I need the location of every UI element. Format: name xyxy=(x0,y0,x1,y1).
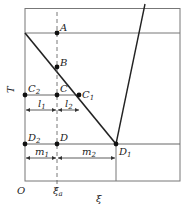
label-c: C xyxy=(60,83,68,94)
label-l1: l1 xyxy=(38,98,46,111)
label-d1: D1 xyxy=(118,146,132,159)
origin-label: O xyxy=(17,185,25,196)
label-d2: D2 xyxy=(27,132,41,145)
point-c1 xyxy=(77,93,82,98)
phase-diagram: A B C2 C C1 D2 D D1 l1 l2 m1 m2 T O ξa ξ xyxy=(0,0,193,215)
x-axis-label: ξ xyxy=(96,193,102,204)
point-a xyxy=(55,31,60,36)
label-d: D xyxy=(59,132,68,143)
y-axis-label: T xyxy=(5,85,16,93)
label-c2: C2 xyxy=(28,83,41,96)
point-b xyxy=(55,65,60,70)
label-a: A xyxy=(59,22,67,33)
label-c1: C1 xyxy=(82,89,94,102)
label-b: B xyxy=(59,57,67,68)
point-d xyxy=(55,142,60,147)
label-l2: l2 xyxy=(65,98,73,111)
x-tick-label: ξa xyxy=(53,185,63,198)
point-d2 xyxy=(23,142,28,147)
solidus-line xyxy=(116,4,145,144)
label-m1: m1 xyxy=(35,146,49,159)
point-c2 xyxy=(23,93,28,98)
label-m2: m2 xyxy=(82,146,96,159)
point-c xyxy=(55,93,60,98)
point-d1 xyxy=(114,142,119,147)
